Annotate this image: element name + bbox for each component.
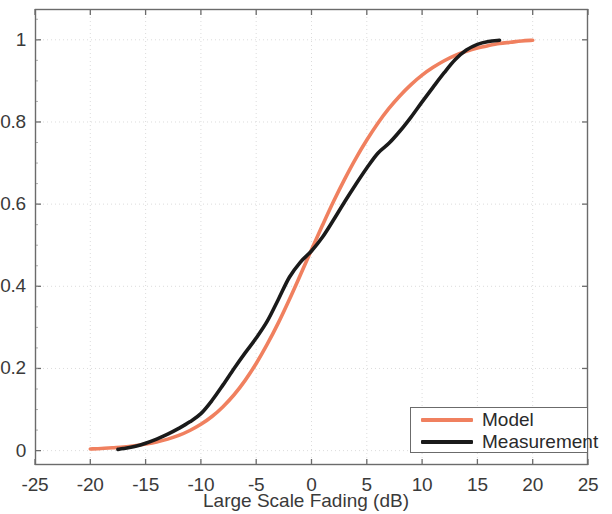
legend-swatch-model bbox=[421, 418, 473, 422]
y-tick-label: 0 bbox=[0, 440, 26, 462]
y-tick-label: 0.6 bbox=[0, 193, 26, 215]
x-axis-label: Large Scale Fading (dB) bbox=[0, 490, 612, 512]
series-line-measurement bbox=[118, 40, 500, 449]
y-tick-label: 0.4 bbox=[0, 275, 26, 297]
y-tick-label: 1 bbox=[0, 29, 26, 51]
cdf-figure: -25-20-15-10-50510152025 00.20.40.60.81 … bbox=[0, 0, 612, 514]
y-tick-label: 0.2 bbox=[0, 357, 26, 379]
y-tick-label: 0.8 bbox=[0, 111, 26, 133]
legend-label-model: Model bbox=[482, 410, 534, 429]
legend-swatch-measurement bbox=[421, 440, 473, 444]
legend: Model Measurement bbox=[410, 407, 588, 453]
legend-label-measurement: Measurement bbox=[482, 432, 598, 451]
legend-entry-measurement: Measurement bbox=[411, 430, 587, 453]
grid-lines bbox=[35, 9, 588, 465]
legend-entry-model: Model bbox=[411, 408, 587, 431]
